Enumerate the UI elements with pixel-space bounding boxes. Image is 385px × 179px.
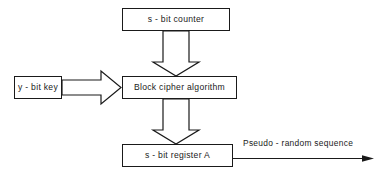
block-label-key: y - bit key (18, 83, 58, 92)
diagram-canvas: s - bit counter y - bit key Block cipher… (0, 0, 385, 179)
output-label-pseudo-random-sequence: Pseudo - random sequence (243, 138, 353, 148)
hollow-arrow-counter-to-cipher (153, 31, 199, 76)
block-s-bit-counter: s - bit counter (122, 8, 230, 31)
block-s-bit-register-a: s - bit register A (122, 144, 233, 167)
output-arrowhead-icon (362, 155, 374, 162)
block-label-counter: s - bit counter (148, 15, 205, 24)
block-label-cipher: Block cipher algorithm (134, 83, 225, 92)
block-block-cipher-algorithm: Block cipher algorithm (122, 76, 237, 99)
block-label-register: s - bit register A (145, 151, 210, 160)
hollow-arrow-key-to-cipher (62, 71, 121, 104)
hollow-arrow-cipher-to-register (153, 99, 199, 144)
block-y-bit-key: y - bit key (14, 76, 62, 99)
